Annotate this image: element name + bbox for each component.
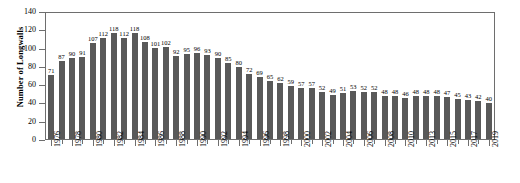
bar[interactable]: [111, 33, 117, 139]
bar-slot: 59: [286, 13, 296, 139]
x-axis-tick-label: 2008: [388, 131, 396, 147]
bar[interactable]: [225, 63, 231, 140]
bar[interactable]: [152, 48, 158, 139]
bar-value-label: 53: [350, 83, 357, 90]
y-axis-tick: [39, 140, 45, 141]
x-axis-tick-label: 1990: [200, 131, 208, 147]
bar[interactable]: [69, 58, 75, 139]
bar-value-label: 42: [475, 93, 482, 100]
x-axis-tick-label: 1978: [75, 131, 83, 147]
bar-value-label: 72: [246, 66, 253, 73]
bar[interactable]: [194, 53, 200, 139]
x-axis-tick-label: 1998: [283, 131, 291, 147]
y-axis-tick-label: 120: [0, 26, 36, 34]
bar-value-label: 43: [465, 92, 472, 99]
x-axis-tick-label: 2004: [346, 131, 354, 147]
bar-slot: 52: [369, 13, 379, 139]
x-axis-tick: [166, 140, 167, 144]
bar-value-label: 48: [392, 88, 399, 95]
bar-value-label: 80: [235, 59, 242, 66]
bar-slot: 80: [234, 13, 244, 139]
x-axis-tick-label: 2002: [325, 131, 333, 147]
bar-value-label: 52: [319, 84, 326, 91]
bar[interactable]: [142, 42, 148, 139]
x-axis-tick: [218, 140, 219, 146]
bar-value-label: 93: [204, 47, 211, 54]
x-axis-tick: [82, 140, 83, 144]
bar-value-label: 45: [454, 91, 461, 98]
bar-slot: 93: [202, 13, 212, 139]
bar-value-label: 108: [140, 34, 150, 41]
bar-value-label: 57: [298, 80, 305, 87]
bar[interactable]: [246, 74, 252, 139]
bar[interactable]: [121, 38, 127, 139]
x-axis-tick: [207, 140, 208, 144]
bar-value-label: 102: [161, 39, 171, 46]
bar-value-label: 48: [433, 88, 440, 95]
x-axis-tick-label: 2017: [471, 131, 479, 147]
x-axis-tick: [187, 140, 188, 144]
bar-slot: 112: [98, 13, 108, 139]
bar[interactable]: [204, 55, 210, 139]
y-axis-tick-label: 60: [0, 81, 36, 89]
y-axis-tick-label: 40: [0, 99, 36, 107]
bar-slot: 112: [119, 13, 129, 139]
y-axis-tick-label: 20: [0, 118, 36, 126]
bar-slot: 71: [46, 13, 56, 139]
bar-value-label: 71: [48, 67, 55, 74]
bar-slot: 85: [223, 13, 233, 139]
bar-slot: 118: [109, 13, 119, 139]
x-axis-tick-label: 1994: [242, 131, 250, 147]
x-axis-tick-label: 1986: [158, 131, 166, 147]
x-axis-tick-label: 1976: [54, 131, 62, 147]
bar[interactable]: [90, 43, 96, 139]
bar[interactable]: [163, 47, 169, 139]
x-axis-tick: [270, 140, 271, 144]
bar-slot: 95: [181, 13, 191, 139]
y-axis-tick-label: 0: [0, 136, 36, 144]
bar-slot: 90: [67, 13, 77, 139]
bar[interactable]: [100, 38, 106, 139]
bar-slot: 47: [442, 13, 452, 139]
bar-value-label: 48: [413, 88, 420, 95]
x-axis-tick: [72, 140, 73, 146]
bar-slot: 48: [411, 13, 421, 139]
bar-slot: 118: [129, 13, 139, 139]
x-axis-tick: [364, 140, 365, 146]
x-axis-tick: [197, 140, 198, 146]
bar-slot: 42: [473, 13, 483, 139]
bar-slot: 72: [244, 13, 254, 139]
x-axis-tick-label: 2010: [408, 131, 416, 147]
bar-slot: 48: [379, 13, 389, 139]
y-axis-tick-label: 80: [0, 63, 36, 71]
bar-value-label: 48: [423, 88, 430, 95]
bar-value-label: 87: [58, 53, 65, 60]
bar-slot: 69: [254, 13, 264, 139]
bar[interactable]: [257, 77, 263, 139]
bar-slot: 107: [88, 13, 98, 139]
bar-slot: 101: [150, 13, 160, 139]
bar-value-label: 69: [256, 69, 263, 76]
bar-slot: 57: [296, 13, 306, 139]
bar[interactable]: [215, 58, 221, 139]
bar-value-label: 62: [277, 75, 284, 82]
bar[interactable]: [132, 33, 138, 139]
x-axis-tick: [114, 140, 115, 146]
bar[interactable]: [79, 57, 85, 139]
x-axis-tick-label: 1980: [96, 131, 104, 147]
bar[interactable]: [48, 75, 54, 139]
x-axis-tick: [103, 140, 104, 144]
bar[interactable]: [184, 54, 190, 140]
bar[interactable]: [173, 56, 179, 139]
x-axis-tick: [343, 140, 344, 146]
x-axis-tick: [249, 140, 250, 144]
x-axis-tick: [385, 140, 386, 146]
x-axis-tick: [124, 140, 125, 144]
x-axis-tick-label: 2019: [492, 131, 500, 147]
x-axis-tick-label: 2013: [429, 131, 437, 147]
bar[interactable]: [236, 67, 242, 139]
bar-slot: 87: [56, 13, 66, 139]
bar[interactable]: [59, 61, 65, 139]
bar-value-label: 112: [119, 30, 129, 37]
bar-slot: 90: [213, 13, 223, 139]
